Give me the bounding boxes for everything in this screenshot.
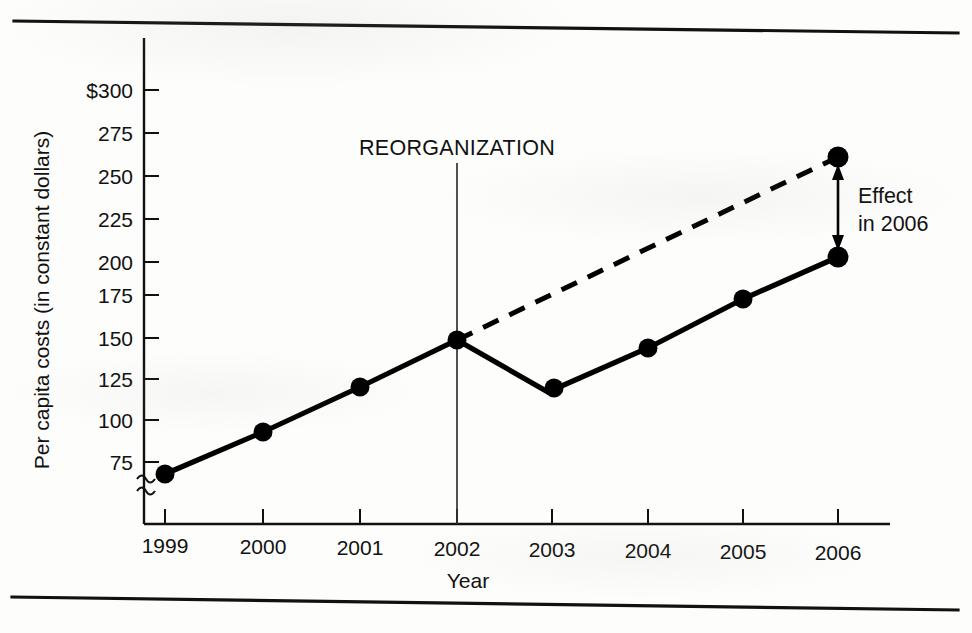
projected-trend-line (457, 157, 838, 340)
x-tick-label: 2001 (337, 536, 384, 559)
x-tick-label: 2003 (529, 538, 576, 561)
y-axis-title: Per capita costs (in constant dollars) (30, 131, 53, 469)
data-point-2005 (734, 290, 753, 309)
data-point-2003 (545, 379, 564, 398)
effect-arrow-group (832, 164, 844, 251)
y-tick-label: 175 (98, 284, 133, 307)
x-axis-tick-labels: 1999 2000 2001 2002 2003 2004 2005 2006 (142, 534, 862, 564)
observed-series-line (165, 257, 838, 474)
y-tick-label: 150 (98, 327, 133, 350)
x-axis-ticks (165, 509, 838, 524)
y-tick-label: 200 (98, 251, 133, 274)
top-page-rule (14, 21, 958, 33)
x-tick-label: 2006 (815, 541, 862, 564)
line-chart: $300 275 250 225 200 175 150 125 100 75 … (0, 0, 972, 633)
data-point-2000 (254, 423, 273, 442)
data-point-2002 (448, 331, 467, 350)
y-tick-label: 100 (98, 409, 133, 432)
axis-break-squiggle-icon (137, 476, 155, 495)
x-axis-title: Year (447, 569, 489, 592)
data-point-markers (156, 147, 849, 484)
y-axis-ticks (144, 90, 159, 462)
y-axis-tick-labels: $300 275 250 225 200 175 150 125 100 75 (86, 79, 133, 474)
figure-container: $300 275 250 225 200 175 150 125 100 75 … (0, 0, 972, 633)
y-tick-label: 125 (98, 368, 133, 391)
data-point-2001 (351, 378, 370, 397)
x-tick-label: 2000 (240, 535, 287, 558)
y-tick-label: $300 (86, 79, 133, 102)
effect-label-line1: Effect (858, 184, 913, 208)
data-point-2004 (639, 339, 658, 358)
bottom-page-rule (12, 597, 958, 610)
x-tick-label: 2002 (434, 537, 481, 560)
effect-label-line2: in 2006 (858, 212, 929, 236)
data-point-1999 (156, 465, 175, 484)
x-tick-label: 2005 (720, 540, 767, 563)
y-tick-label: 275 (98, 122, 133, 145)
y-tick-label: 250 (98, 165, 133, 188)
reorganization-label: REORGANIZATION (359, 136, 555, 160)
x-tick-label: 1999 (142, 534, 189, 557)
y-tick-label: 75 (110, 451, 133, 474)
x-tick-label: 2004 (625, 539, 672, 562)
y-tick-label: 225 (98, 208, 133, 231)
